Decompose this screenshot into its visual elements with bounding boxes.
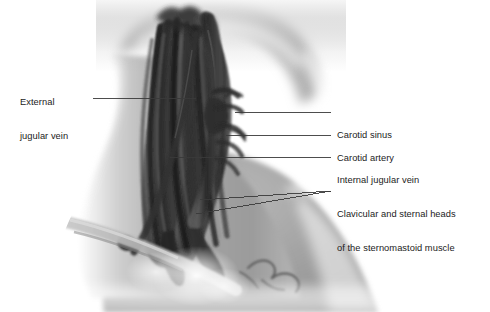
label-line: of the sternomastoid muscle <box>337 243 456 254</box>
anatomical-figure: External jugular vein Carotid sinus Caro… <box>0 0 490 312</box>
label-line: External <box>20 97 68 108</box>
label-line: Internal jugular vein <box>337 175 419 186</box>
label-external-jugular-vein: External jugular vein <box>20 74 68 165</box>
label-clavicular-and-sternal-heads: Clavicular and sternal heads of the ster… <box>337 186 456 277</box>
label-line: Clavicular and sternal heads <box>337 209 456 220</box>
label-line: jugular vein <box>20 131 68 142</box>
bottom-fade <box>0 286 490 312</box>
